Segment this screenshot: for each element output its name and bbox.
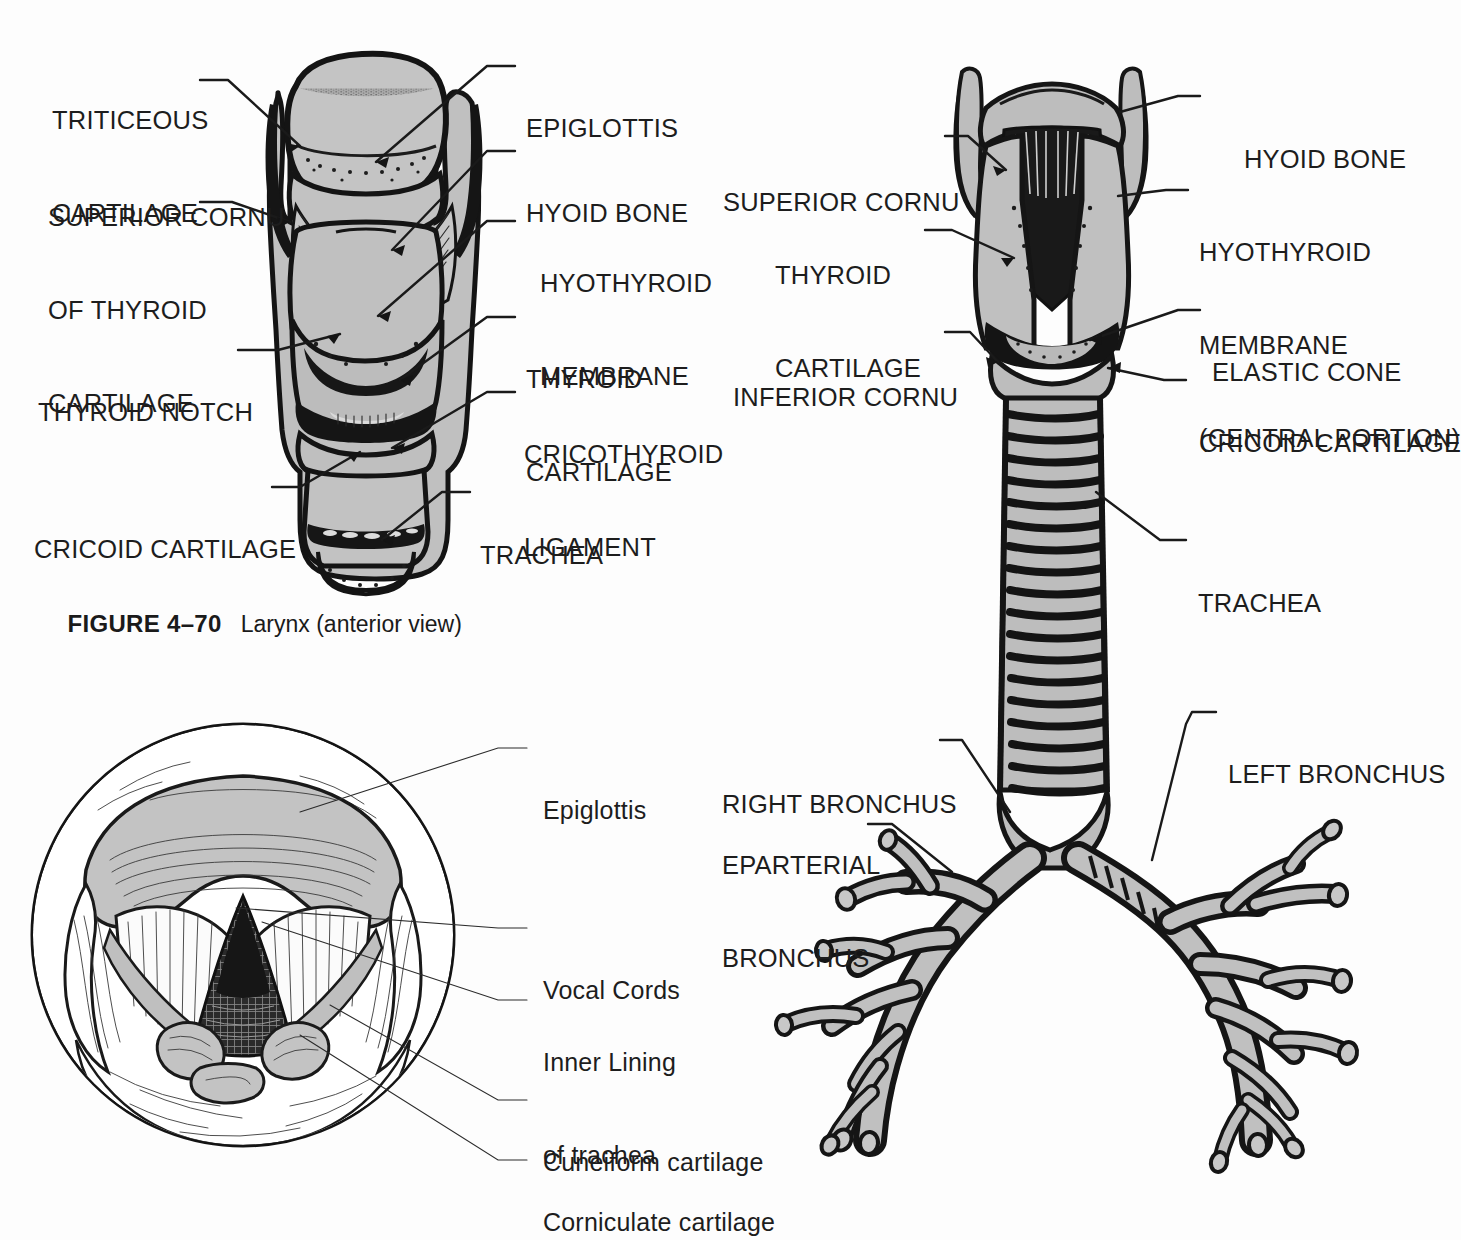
tracheal-rings: [1000, 398, 1107, 793]
figure-caption-text: Larynx (anterior view): [241, 611, 462, 637]
label-epiglottis-fig3: Epiglottis: [543, 733, 646, 888]
label-trachea-fig2: TRACHEA: [1198, 526, 1321, 681]
label-cricoid-cartilage-fig2: CRICOID CARTILAGE: [1199, 366, 1461, 521]
label-eparterial-bronchus: EPARTERIAL BRONCHUS: [722, 788, 880, 1036]
label-left-bronchus: LEFT BRONCHUS: [1228, 697, 1446, 852]
figure-number: FIGURE 4–70: [68, 610, 222, 637]
figure-caption: FIGURE 4–70 Larynx (anterior view): [42, 583, 462, 665]
laryngoscopic-view-illustration: [33, 725, 527, 1160]
label-corniculate-cartilage: Corniculate cartilage: [543, 1145, 775, 1240]
left-bronchus-tree: [1078, 817, 1359, 1174]
label-inferior-cornu: INFERIOR CORNU: [733, 320, 958, 475]
label-thyroid-notch: THYROID NOTCH: [38, 335, 253, 490]
label-trachea-fig1: TRACHEA: [480, 478, 603, 633]
